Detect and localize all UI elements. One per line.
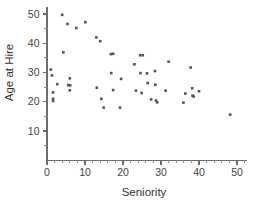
plot-area: 102030405001020304050SeniorityAge at Hir… [0, 0, 264, 201]
data-point [50, 68, 53, 71]
data-point [66, 23, 69, 26]
data-point [133, 63, 136, 66]
data-point [51, 74, 54, 77]
data-point [229, 113, 232, 116]
data-point [191, 87, 194, 90]
data-point [184, 92, 187, 95]
data-point [154, 70, 157, 73]
data-point [140, 92, 143, 95]
data-point [167, 60, 170, 63]
x-tick-label: 30 [155, 166, 167, 178]
data-point [198, 90, 201, 93]
data-point [150, 98, 153, 101]
y-tick-label: 40 [28, 37, 40, 49]
data-point [139, 72, 142, 75]
data-point [69, 77, 72, 80]
data-point [146, 82, 149, 85]
data-point [102, 106, 105, 109]
data-point [154, 83, 157, 86]
data-point [62, 51, 65, 54]
x-tick-label: 0 [44, 166, 50, 178]
data-point [164, 89, 167, 92]
data-point [120, 78, 123, 81]
data-point [52, 91, 55, 94]
x-tick-label: 50 [231, 166, 243, 178]
y-tick-label: 20 [28, 95, 40, 107]
data-point [75, 27, 78, 30]
data-points-group [50, 14, 232, 116]
data-point [112, 52, 115, 55]
y-tick-label: 10 [28, 125, 40, 137]
x-tick-label: 10 [79, 166, 91, 178]
data-point [146, 72, 149, 75]
data-point [99, 40, 102, 43]
y-tick-label: 30 [28, 66, 40, 78]
data-point [192, 95, 195, 98]
data-point [100, 98, 103, 101]
x-tick-label: 20 [117, 166, 129, 178]
data-point [110, 72, 113, 75]
scatter-plot-figure: 102030405001020304050SeniorityAge at Hir… [0, 0, 264, 201]
data-point [95, 36, 98, 39]
data-point [56, 83, 59, 86]
data-point [156, 101, 159, 104]
data-point [69, 84, 72, 87]
data-point [182, 101, 185, 104]
x-tick-label: 40 [193, 166, 205, 178]
data-point [112, 89, 115, 92]
data-point [84, 21, 87, 24]
data-point [61, 14, 64, 17]
data-point [141, 54, 144, 57]
data-point [139, 54, 142, 57]
data-point [135, 89, 138, 92]
y-axis-title: Age at Hire [3, 44, 15, 102]
x-axis-title: Seniority [122, 186, 167, 198]
data-point [189, 66, 192, 69]
y-tick-label: 50 [28, 8, 40, 20]
data-point [110, 53, 113, 56]
data-point [119, 106, 122, 109]
data-point [52, 100, 55, 103]
data-point [69, 89, 72, 92]
data-point [95, 86, 98, 89]
